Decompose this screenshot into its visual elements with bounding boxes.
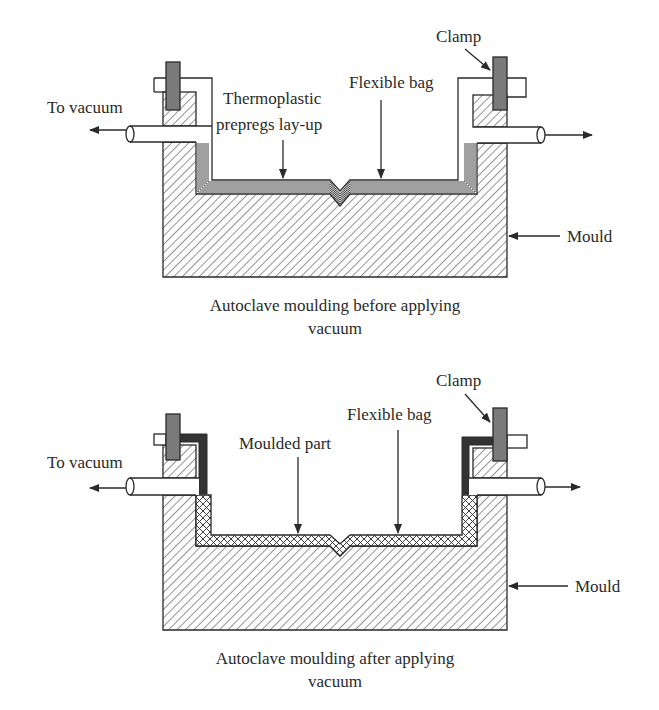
label-flexible-bag: Flexible bag (349, 73, 434, 92)
diagram-before-vacuum: Clamp Flexible bag Thermoplastic prepreg… (47, 27, 613, 338)
caption-after-line1: Autoclave moulding after applying (216, 649, 455, 668)
left-vacuum-pipe (90, 478, 199, 495)
left-vacuum-pipe (90, 126, 212, 142)
label-to-vacuum: To vacuum (47, 98, 123, 117)
caption-after-line2: vacuum (308, 672, 362, 691)
label-mould: Mould (575, 577, 621, 596)
clamp-left (166, 62, 180, 110)
label-to-vacuum: To vacuum (47, 453, 123, 472)
right-vacuum-pipe (473, 127, 592, 143)
diagram-svg: Clamp Flexible bag Thermoplastic prepreg… (0, 0, 659, 710)
flange-right (507, 435, 527, 448)
clamp-right (493, 57, 507, 110)
label-clamp: Clamp (436, 371, 481, 390)
right-vacuum-pipe (469, 478, 580, 495)
mould-body (163, 495, 507, 630)
label-mould: Mould (567, 227, 613, 246)
mould-body (163, 142, 507, 277)
caption-before-line1: Autoclave moulding before applying (210, 296, 461, 315)
clamp-left (166, 414, 180, 460)
flange-left (154, 434, 166, 445)
label-flexible-bag: Flexible bag (347, 405, 432, 424)
clamp-right (493, 408, 507, 461)
label-moulded-part: Moulded part (239, 434, 331, 453)
diagram-after-vacuum: Clamp Flexible bag Moulded part To vacuu… (47, 371, 621, 691)
caption-before-line2: vacuum (308, 319, 362, 338)
autoclave-moulding-figure: Clamp Flexible bag Thermoplastic prepreg… (0, 0, 659, 710)
label-clamp: Clamp (436, 27, 481, 46)
label-layup-line1: Thermoplastic (223, 89, 322, 108)
label-layup-line2: prepregs lay-up (216, 115, 322, 134)
